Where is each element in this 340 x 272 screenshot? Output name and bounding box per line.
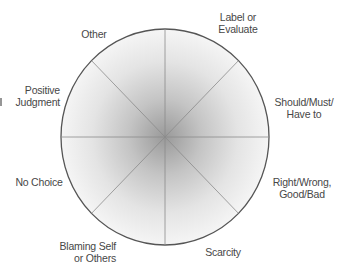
wheel-graphic bbox=[0, 0, 340, 272]
label-other: Other bbox=[72, 28, 116, 40]
label-line: Scarcity bbox=[196, 246, 250, 258]
label-line: Have to bbox=[268, 108, 340, 120]
label-line: Label or bbox=[208, 11, 268, 23]
label-line: or Others bbox=[50, 252, 116, 264]
label-line: Good/Bad bbox=[266, 188, 338, 200]
label-line: Judgment bbox=[8, 96, 60, 108]
label-should-must-have-to: Should/Must/ Have to bbox=[268, 96, 340, 120]
label-line: Blaming Self bbox=[50, 240, 116, 252]
label-positive-judgment: Positive Judgment bbox=[8, 84, 60, 108]
label-line: Should/Must/ bbox=[268, 96, 340, 108]
label-line: Other bbox=[72, 28, 116, 40]
judgment-wheel-diagram: Other Label or Evaluate Should/Must/ Hav… bbox=[0, 0, 340, 272]
cropped-glyph-artifact bbox=[0, 98, 2, 106]
label-line: No Choice bbox=[10, 176, 68, 188]
label-label-or-evaluate: Label or Evaluate bbox=[208, 11, 268, 35]
label-line: Right/Wrong, bbox=[266, 176, 338, 188]
label-blaming-self-or-others: Blaming Self or Others bbox=[50, 240, 116, 264]
wheel-spokes bbox=[61, 29, 269, 245]
label-scarcity: Scarcity bbox=[196, 246, 250, 258]
label-line: Positive bbox=[8, 84, 60, 96]
label-no-choice: No Choice bbox=[10, 176, 68, 188]
label-right-wrong-good-bad: Right/Wrong, Good/Bad bbox=[266, 176, 338, 200]
label-line: Evaluate bbox=[208, 23, 268, 35]
